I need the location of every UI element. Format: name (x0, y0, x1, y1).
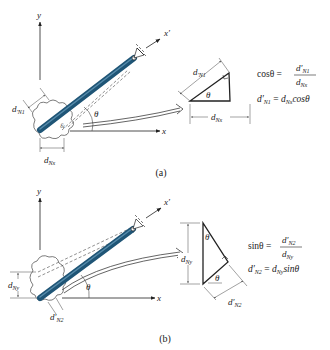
eq1-denominator: dNy (282, 249, 294, 260)
x-axis-label: x (156, 293, 161, 303)
triangle-angle-top: θ (205, 232, 210, 242)
panel-b: y x x′ θ (6, 186, 302, 345)
eq1-lhs: sinθ = (248, 241, 271, 251)
angle-label-b: θ (86, 282, 91, 292)
triangle-b: θ θ dNy d′N2 (178, 223, 247, 308)
dim-d-Nx-a: dNx (40, 138, 64, 166)
y-axis-label: y (36, 186, 41, 196)
dashed-projection-a (62, 70, 128, 130)
x-prime-axis-b: x′ (146, 197, 171, 218)
eq1-numerator: d′N2 (282, 235, 295, 246)
panel-a: y x & x′ (12, 10, 316, 179)
panel-caption-a: (a) (155, 167, 166, 179)
x-prime-label: x′ (163, 28, 171, 38)
x-axis-a: x (70, 126, 166, 136)
eq1-numerator: d′N1 (296, 63, 309, 74)
eq1-lhs: cosθ = (257, 69, 282, 79)
equations-a: cosθ = d′N1 dNx d′N1 = dNxcosθ (257, 63, 316, 105)
triangle-leg-label: d′N2 (228, 297, 241, 308)
y-axis-label: y (36, 10, 41, 20)
panel-caption-b: (b) (159, 333, 171, 345)
dim-d-N2-b: d′N2 (48, 298, 63, 323)
x-axis-label: x (161, 126, 166, 136)
triangle-hyp-label: d′N1 (193, 67, 206, 78)
cloud-mark-a: & (60, 122, 66, 129)
dim-label: d′N1 (12, 104, 25, 115)
triangle-angle-bottom: θ (215, 273, 220, 283)
angle-arc-a (84, 107, 93, 131)
y-axis-b: y (36, 186, 41, 250)
angle-label-a: θ (94, 109, 99, 119)
pin-support-icon (134, 44, 146, 58)
dim-label: dNx (44, 155, 56, 166)
dim-label: d′N2 (50, 312, 63, 323)
eq1-denominator: dNx (296, 77, 308, 88)
eq2: d′N1 = dNxcosθ (257, 94, 310, 105)
pin-support-icon (133, 215, 145, 229)
eq2: d′N2 = dNysinθ (248, 264, 299, 275)
equations-b: sinθ = d′N2 dNy d′N2 = dNysinθ (248, 235, 302, 275)
y-axis-a: y (36, 10, 41, 80)
figure-canvas: y x & x′ (0, 0, 330, 350)
x-prime-axis-a: x′ (146, 28, 171, 48)
x-axis-b: x (62, 293, 161, 303)
x-prime-label: x′ (163, 197, 171, 207)
triangle-a: θ d′N1 dNx (178, 58, 250, 124)
triangle-angle-label: θ (206, 90, 211, 100)
